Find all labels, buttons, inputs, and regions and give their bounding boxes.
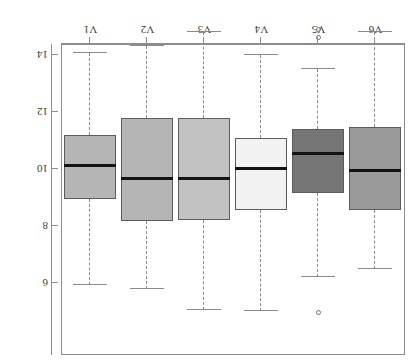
category-label-v2: V2: [128, 24, 168, 36]
whisker-stem-v1-b: [90, 53, 91, 135]
value-label-10: 10: [37, 163, 48, 175]
whisker-stem-v6-a: [375, 210, 376, 269]
whisker-cap-v3-low: [188, 309, 222, 310]
whisker-stem-v2-b: [147, 46, 148, 117]
median-line-v2: [122, 177, 174, 180]
category-axis-line: [61, 43, 405, 44]
whisker-cap-v5-low: [302, 276, 336, 277]
whisker-cap-v1-high: [74, 52, 108, 53]
whisker-cap-v5-high: [302, 68, 336, 69]
whisker-cap-v6-high: [359, 31, 393, 32]
category-label-v4: V4: [242, 24, 282, 36]
category-tick-v1: [90, 37, 91, 43]
whisker-stem-v5-a: [318, 193, 319, 277]
median-line-v5: [293, 152, 345, 155]
iqr-box-v2[interactable]: [122, 118, 174, 221]
category-label-v6: V6: [356, 24, 396, 36]
whisker-cap-v4-low: [245, 311, 279, 312]
whisker-stem-v4-b: [261, 55, 262, 138]
median-line-v3: [179, 177, 231, 180]
category-tick-v4: [261, 37, 262, 43]
value-tick-14: [51, 54, 58, 55]
whisker-stem-v4-a: [261, 210, 262, 311]
value-label-6: 6: [43, 277, 49, 289]
whisker-stem-v3-a: [204, 220, 205, 309]
value-tick-12: [51, 111, 58, 112]
whisker-stem-v6-b: [375, 32, 376, 127]
iqr-box-v3[interactable]: [179, 118, 231, 221]
whisker-stem-v5-b: [318, 69, 319, 129]
whisker-cap-v2-high: [131, 45, 165, 46]
category-label-v1: V1: [71, 24, 111, 36]
value-label-14: 14: [37, 49, 48, 61]
category-tick-v2: [147, 37, 148, 43]
whisker-cap-v1-low: [74, 284, 108, 285]
value-tick-10: [51, 168, 58, 169]
iqr-box-v1[interactable]: [65, 135, 117, 199]
median-line-v4: [236, 168, 288, 171]
value-axis-line: [51, 44, 52, 355]
whisker-stem-v2-a: [147, 221, 148, 289]
outlier-point-v5-2[interactable]: [316, 35, 321, 40]
whisker-cap-v4-high: [245, 54, 279, 55]
whisker-cap-v3-high: [188, 31, 222, 32]
iqr-box-v5[interactable]: [293, 129, 345, 193]
whisker-cap-v2-low: [131, 288, 165, 289]
category-label-v3: V3: [185, 24, 225, 36]
value-tick-8: [51, 225, 58, 226]
median-line-v6: [350, 169, 402, 172]
value-label-12: 12: [37, 106, 48, 118]
whisker-stem-v1-a: [90, 199, 91, 285]
boxplot-figure: V6V5V4V3V2V1 68101214: [0, 0, 419, 360]
value-tick-6: [51, 282, 58, 283]
iqr-box-v4[interactable]: [236, 138, 288, 210]
value-label-8: 8: [43, 220, 49, 232]
whisker-stem-v3-b: [204, 32, 205, 118]
outlier-point-v5-3[interactable]: [316, 27, 321, 32]
whisker-cap-v6-low: [359, 268, 393, 269]
median-line-v1: [65, 164, 117, 167]
